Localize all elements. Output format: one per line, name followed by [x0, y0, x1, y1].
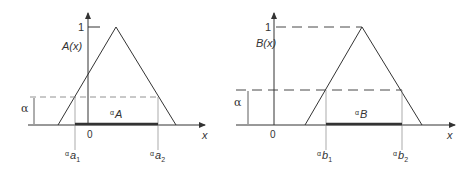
right-alpha-label: α — [234, 97, 241, 108]
right-zero-label: 0 — [270, 130, 276, 140]
right-function-label: B(x) — [256, 38, 276, 49]
left-alpha-label: α — [21, 103, 28, 114]
left-plot — [28, 13, 205, 150]
right-one-label: 1 — [265, 22, 271, 33]
right-x-label: x — [447, 130, 453, 141]
left-a1-label: αa1 — [65, 150, 80, 163]
right-cut-label: αB — [355, 109, 367, 120]
right-b1-label: αb1 — [317, 150, 332, 163]
right-b2-label: αb2 — [393, 150, 408, 163]
left-function-label: A(x) — [62, 41, 82, 52]
left-zero-label: 0 — [87, 130, 93, 140]
right-plot — [236, 13, 455, 150]
left-a2-label: αa2 — [150, 150, 165, 163]
left-one-label: 1 — [78, 22, 84, 33]
left-x-label: x — [202, 130, 208, 141]
alpha-cut-diagram: 1 A(x) α 0 x αA αa1 αa2 1 B(x) α 0 x αB … — [0, 0, 472, 170]
left-cut-label: αA — [110, 109, 122, 120]
diagram-graphics — [0, 0, 472, 170]
